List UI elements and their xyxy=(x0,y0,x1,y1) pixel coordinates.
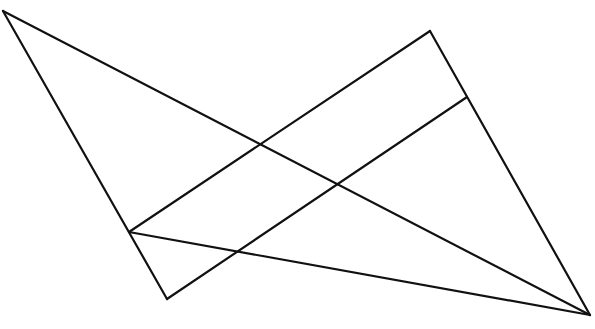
geometric-figure-canvas xyxy=(0,0,595,329)
